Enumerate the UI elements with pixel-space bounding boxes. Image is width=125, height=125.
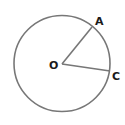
label-point-c: C [112, 70, 120, 83]
circle-diagram: O A C [0, 0, 125, 125]
radius-oc [62, 64, 110, 71]
radius-oa [62, 27, 92, 64]
label-center-o: O [49, 59, 58, 72]
label-point-a: A [95, 15, 104, 28]
